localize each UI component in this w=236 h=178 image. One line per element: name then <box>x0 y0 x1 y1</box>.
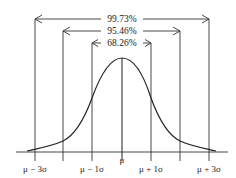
label-minus-1-sigma: μ − 1σ <box>80 164 104 174</box>
label-minus-3-sigma: μ − 3σ <box>23 164 47 174</box>
interval-arrow-95: 95.46% <box>63 26 180 36</box>
label-mean: μ <box>120 155 125 165</box>
interval-arrow-99: 99.73% <box>35 14 209 24</box>
interval-arrow-68: 68.26% <box>92 38 151 48</box>
interval-label-99: 99.73% <box>107 14 136 24</box>
axis-labels: μ − 3σ μ − 1σ μ μ + 1σ μ + 3σ <box>23 155 221 174</box>
normal-distribution-diagram: 99.73% 95.46% 68.26% μ − 3σ μ − 1σ μ μ +… <box>0 0 236 178</box>
label-plus-3-sigma: μ + 3σ <box>197 164 221 174</box>
label-plus-1-sigma: μ + 1σ <box>139 164 163 174</box>
interval-label-95: 95.46% <box>107 26 136 36</box>
interval-label-68: 68.26% <box>107 38 136 48</box>
